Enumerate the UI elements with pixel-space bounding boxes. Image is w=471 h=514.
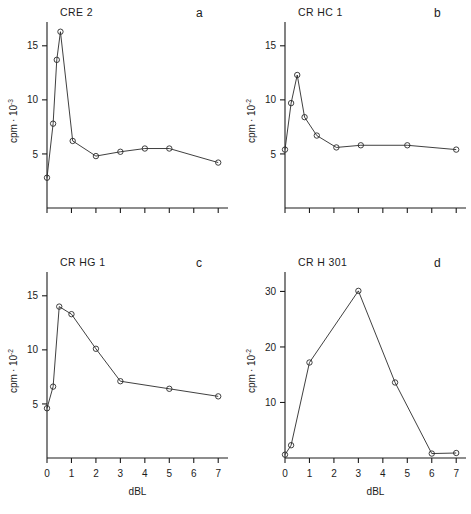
x-tick-label: 0 <box>44 468 50 479</box>
y-axis-label: cpm· 10-2 <box>245 99 257 143</box>
panel-letter: b <box>434 6 441 20</box>
panel-b: CR HC 1b51015cpm· 10-2 <box>235 0 471 252</box>
panel-title: CR HC 1 <box>298 6 343 18</box>
y-tick-label: 10 <box>27 344 39 355</box>
x-tick-label: 5 <box>167 468 173 479</box>
x-tick-label: 7 <box>453 468 459 479</box>
panel-title: CR HG 1 <box>60 256 105 268</box>
x-tick-label: 1 <box>307 468 313 479</box>
series-line <box>285 75 456 150</box>
panel-c-plot: CR HG 1c5101501234567dBLcpm· 10-2 <box>0 250 236 514</box>
panel-d-plot: CR H 301d10203001234567dBLcpm· 10-2 <box>235 250 471 514</box>
x-tick-label: 4 <box>380 468 386 479</box>
panel-title: CR H 301 <box>298 256 347 268</box>
panel-d: CR H 301d10203001234567dBLcpm· 10-2 <box>235 250 471 514</box>
x-tick-label: 6 <box>429 468 435 479</box>
x-tick-label: 3 <box>356 468 362 479</box>
panel-letter: a <box>196 6 203 20</box>
y-axis-label: cpm· 10-3 <box>7 99 19 143</box>
y-tick-label: 15 <box>265 40 277 51</box>
series-line <box>285 291 456 455</box>
series-line <box>47 32 218 178</box>
panel-c: CR HG 1c5101501234567dBLcpm· 10-2 <box>0 250 236 514</box>
x-axis-label: dBL <box>367 486 385 497</box>
x-tick-label: 0 <box>282 468 288 479</box>
y-tick-label: 15 <box>27 40 39 51</box>
y-tick-label: 10 <box>27 94 39 105</box>
x-tick-label: 2 <box>331 468 337 479</box>
y-tick-label: 10 <box>265 94 277 105</box>
x-tick-label: 3 <box>118 468 124 479</box>
y-tick-label: 5 <box>32 149 38 160</box>
y-tick-label: 20 <box>265 342 277 353</box>
panel-a-plot: CRE 2a51015cpm· 10-3 <box>0 0 236 252</box>
panel-title: CRE 2 <box>60 6 93 18</box>
x-axis-label: dBL <box>129 486 147 497</box>
y-axis-label: cpm· 10-2 <box>245 349 257 393</box>
y-tick-label: 5 <box>270 149 276 160</box>
y-axis-label: cpm· 10-2 <box>7 349 19 393</box>
y-tick-label: 5 <box>32 399 38 410</box>
panel-letter: c <box>196 256 202 270</box>
x-tick-label: 7 <box>215 468 221 479</box>
figure-panel-grid: CRE 2a51015cpm· 10-3 CR HC 1b51015cpm· 1… <box>0 0 471 514</box>
x-tick-label: 5 <box>405 468 411 479</box>
x-tick-label: 1 <box>69 468 75 479</box>
y-tick-label: 30 <box>265 286 277 297</box>
x-tick-label: 2 <box>93 468 99 479</box>
x-tick-label: 4 <box>142 468 148 479</box>
x-tick-label: 6 <box>191 468 197 479</box>
panel-a: CRE 2a51015cpm· 10-3 <box>0 0 236 252</box>
y-tick-label: 10 <box>265 397 277 408</box>
panel-letter: d <box>434 256 441 270</box>
panel-b-plot: CR HC 1b51015cpm· 10-2 <box>235 0 471 252</box>
series-line <box>47 307 218 409</box>
y-tick-label: 15 <box>27 290 39 301</box>
